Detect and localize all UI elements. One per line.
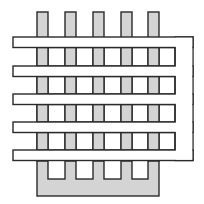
serpentine-cell [132, 77, 148, 95]
serpentine-cell [48, 48, 65, 67]
finger-segment [121, 77, 132, 95]
finger-segment [93, 105, 104, 123]
finger-segment [65, 105, 76, 123]
finger-segment [121, 105, 132, 123]
serpentine-cell [132, 48, 148, 67]
serpentine-bar [13, 122, 193, 133]
serpentine-spine-fill [176, 38, 192, 160]
serpentine-cell [48, 105, 65, 123]
serpentine-cell [132, 133, 148, 151]
finger-segment [37, 77, 48, 95]
serpentine-bar [13, 66, 193, 77]
comb-slot [104, 159, 121, 179]
serpentine-bar [13, 37, 193, 48]
comb-slot [132, 159, 148, 179]
serpentine-cell [76, 133, 93, 151]
diagram-canvas [0, 0, 204, 204]
finger-segment [148, 105, 159, 123]
serpentine-cell [48, 133, 65, 151]
serpentine-cell [159, 133, 175, 151]
serpentine-cell [104, 48, 121, 67]
comb-slot [76, 159, 93, 179]
serpentine-cell [159, 105, 175, 123]
serpentine-bar [13, 150, 193, 161]
serpentine-cell [159, 77, 175, 95]
finger-segment [121, 48, 132, 67]
finger-segment [37, 133, 48, 151]
finger-segment [148, 48, 159, 67]
serpentine-cell [48, 77, 65, 95]
finger-segment [65, 133, 76, 151]
finger-segment [37, 48, 48, 67]
finger-segment [148, 77, 159, 95]
finger-segment [93, 48, 104, 67]
comb-slot [48, 159, 65, 179]
interdigitated-electrode-diagram: Interdigitated serpentine electrode stru… [0, 0, 204, 204]
finger-segment [65, 77, 76, 95]
serpentine-cell [76, 77, 93, 95]
finger-segment [65, 48, 76, 67]
finger-segment [148, 133, 159, 151]
serpentine-cell [76, 105, 93, 123]
serpentine-cell [132, 105, 148, 123]
serpentine-bar [13, 94, 193, 105]
finger-segment [37, 105, 48, 123]
serpentine-cell [104, 77, 121, 95]
serpentine-cell [159, 48, 175, 67]
finger-segment [93, 133, 104, 151]
serpentine-cell [104, 105, 121, 123]
finger-segment [121, 133, 132, 151]
finger-segment [93, 77, 104, 95]
serpentine-cell [104, 133, 121, 151]
serpentine-cell [76, 48, 93, 67]
